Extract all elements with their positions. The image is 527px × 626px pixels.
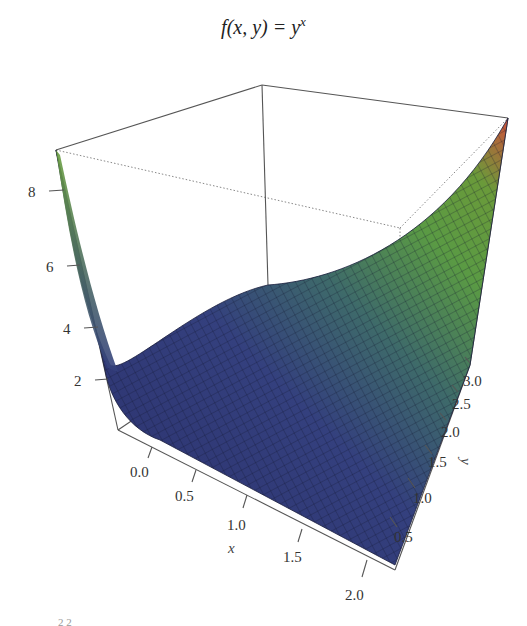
z-axis [49,190,108,380]
y-tick-1.5: 1.5 [428,454,447,470]
z-tick-6: 6 [46,259,54,275]
x-tick-1: 1.0 [227,517,246,533]
x-tick-1.5: 1.5 [283,549,302,565]
y-tick-0.5: 0.5 [394,529,413,545]
surface-plot: 8 6 4 2 0.0 0.5 1.0 x 1.5 2.0 3.0 2.5 2.… [0,0,527,626]
cropped-caption-fragment: 2 2 [58,616,72,626]
y-tick-2.5: 2.5 [452,396,471,412]
z-tick-8: 8 [28,184,36,200]
x-tick-0.5: 0.5 [175,488,194,504]
x-tick-2: 2.0 [345,587,364,603]
surface [56,118,508,565]
x-tick-0: 0.0 [130,464,149,480]
z-tick-2: 2 [74,373,82,389]
y-tick-3: 3.0 [463,373,482,389]
y-axis-label: y [458,456,474,465]
y-tick-2: 2.0 [441,424,460,440]
x-axis-label: x [227,540,235,556]
y-tick-1: 1.0 [413,490,432,506]
z-tick-4: 4 [63,321,71,337]
